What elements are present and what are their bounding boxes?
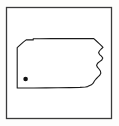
map-thumbnail <box>0 0 119 126</box>
pennsylvania-outline <box>17 39 103 88</box>
state-map-figure <box>0 0 119 126</box>
location-dot-marker[interactable] <box>23 77 28 82</box>
